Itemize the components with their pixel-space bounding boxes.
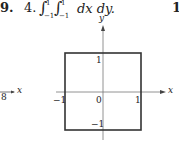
x-axis-label: x — [168, 85, 173, 95]
y-axis-label: y — [99, 13, 104, 23]
left-axis-arrow-icon — [11, 91, 15, 94]
x-neg-label: −1 — [53, 95, 66, 105]
x-pos-label: 1 — [135, 95, 141, 105]
region-diagram — [0, 0, 179, 147]
y-pos-label: 1 — [96, 55, 102, 65]
x-axis-arrow-icon — [160, 90, 166, 94]
origin-label: 0 — [96, 95, 102, 105]
y-neg-label: −1 — [91, 119, 104, 129]
y-axis-arrow-icon — [101, 25, 105, 31]
